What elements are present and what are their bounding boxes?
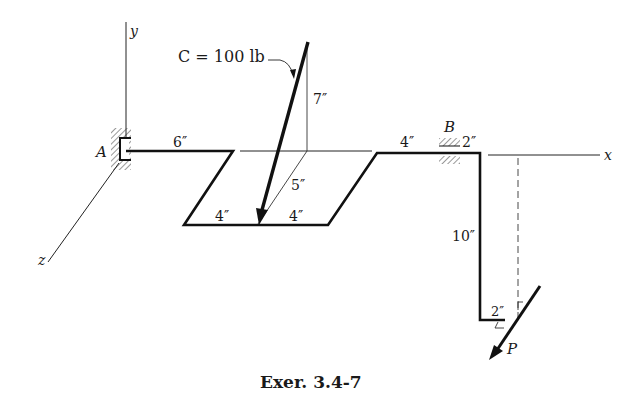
- y-axis-label: y: [129, 23, 139, 39]
- shaft: [126, 151, 505, 320]
- support-b-label: B: [443, 118, 455, 136]
- force-c-label: C = 100 lb: [178, 47, 265, 66]
- dim-10in: 10″: [452, 228, 475, 244]
- figure-caption: Exer. 3.4-7: [260, 372, 362, 392]
- support-a-label: A: [94, 143, 107, 161]
- force-c-arrow: [256, 42, 308, 225]
- dim-4in-left: 4″: [215, 208, 229, 224]
- x-axis-label: x: [604, 147, 612, 163]
- dim-6in: 6″: [173, 134, 187, 150]
- z-axis: [48, 163, 119, 262]
- dim-4in-top: 4″: [400, 134, 414, 150]
- force-p-label: P: [506, 340, 518, 358]
- dim-2in-top: 2″: [462, 134, 476, 150]
- support-a: [111, 128, 131, 170]
- support-b: [439, 138, 460, 164]
- z-axis-label: z: [37, 252, 46, 268]
- dim-4in-right: 4″: [289, 208, 303, 224]
- exercise-diagram: y x z A B C = 100 lb P 6″ 7″ 5″ 4″ 4″ 4″…: [0, 0, 638, 400]
- dim-7in: 7″: [313, 91, 327, 107]
- dim-2in-bottom: 2″: [491, 304, 504, 319]
- dim-5in: 5″: [291, 177, 305, 193]
